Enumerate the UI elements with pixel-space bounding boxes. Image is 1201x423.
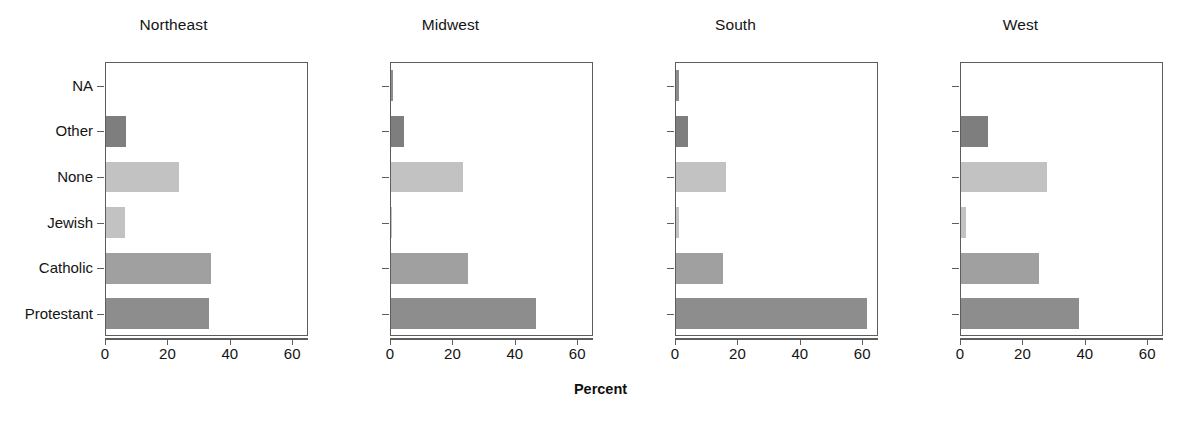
bar-row-jewish [961,207,1162,238]
y-axis-label-jewish: Jewish [47,213,93,230]
y-axis-labels-northeast: NA Other None Jewish Catholic Protestant [0,62,93,336]
x-tick-label-40: 40 [506,345,523,362]
plot-area-west [960,62,1163,336]
x-tick-0 [675,338,676,345]
y-axis-label-protestant: Protestant [25,304,93,321]
y-tick-other [97,131,104,132]
panel-grid: Northeast NA Other None Jewish Catholic … [0,0,1201,380]
bar-row-catholic [391,253,592,284]
bar-none [106,162,179,193]
panel-title-west: West [855,16,1140,34]
x-tick-label-20: 20 [444,345,461,362]
bar-row-other [676,116,877,147]
bar-catholic [676,253,723,284]
y-tick-other [952,131,959,132]
x-tick-label-0: 0 [671,345,679,362]
y-tick-jewish [952,223,959,224]
bar-row-none [391,162,592,193]
y-tick-none [97,177,104,178]
y-tick-catholic [667,268,674,269]
x-tick-0 [960,338,961,345]
bar-row-na [961,70,1162,101]
y-tick-na [382,86,389,87]
panel-south: South [570,0,855,380]
panel-northeast: Northeast NA Other None Jewish Catholic … [0,0,285,380]
bar-row-none [106,162,307,193]
bar-none [676,162,726,193]
x-tick-20 [452,338,453,345]
bar-row-catholic [676,253,877,284]
y-tick-protestant [382,314,389,315]
bar-none [961,162,1047,193]
y-axis-label-none: None [57,168,93,185]
bar-none [391,162,463,193]
plot-area-south [675,62,878,336]
bar-other [676,116,688,147]
bar-row-jewish [106,207,307,238]
bar-jewish [676,207,679,238]
bar-protestant [391,298,536,329]
x-tick-label-20: 20 [159,345,176,362]
x-axis-line-midwest [390,338,593,340]
bar-na [391,70,393,101]
y-tick-none [382,177,389,178]
bar-row-jewish [676,207,877,238]
y-tick-jewish [667,223,674,224]
bar-row-none [676,162,877,193]
bar-row-catholic [106,253,307,284]
x-tick-label-40: 40 [221,345,238,362]
bar-other [391,116,404,147]
y-axis-label-catholic: Catholic [39,259,93,276]
bar-chart-figure: Northeast NA Other None Jewish Catholic … [0,0,1201,423]
bar-row-other [961,116,1162,147]
y-axis-label-other: Other [55,122,93,139]
y-tick-na [952,86,959,87]
bar-na [676,70,679,101]
bar-row-other [391,116,592,147]
x-tick-40 [515,338,516,345]
x-tick-40 [1085,338,1086,345]
bar-protestant [106,298,209,329]
bar-row-none [961,162,1162,193]
x-tick-label-0: 0 [386,345,394,362]
y-tick-jewish [382,223,389,224]
x-tick-20 [167,338,168,345]
bar-row-na [391,70,592,101]
y-tick-protestant [667,314,674,315]
bar-row-jewish [391,207,592,238]
x-tick-20 [1022,338,1023,345]
bar-jewish [391,207,392,238]
x-tick-label-0: 0 [101,345,109,362]
x-tick-label-0: 0 [956,345,964,362]
y-tick-other [382,131,389,132]
y-tick-protestant [97,314,104,315]
bar-catholic [106,253,211,284]
y-tick-catholic [97,268,104,269]
panel-title-south: South [570,16,855,34]
x-axis-line-northeast [105,338,308,340]
y-tick-other [667,131,674,132]
panel-title-midwest: Midwest [285,16,570,34]
bars-west [961,63,1162,335]
panel-midwest: Midwest [285,0,570,380]
x-axis-line-west [960,338,1163,340]
panel-title-northeast: Northeast [0,16,285,34]
y-tick-none [952,177,959,178]
x-axis-line-south [675,338,878,340]
x-tick-0 [105,338,106,345]
y-tick-na [97,86,104,87]
x-tick-40 [800,338,801,345]
bar-protestant [676,298,867,329]
plot-area-northeast [105,62,308,336]
bar-other [106,116,126,147]
bar-row-protestant [961,298,1162,329]
x-tick-label-20: 20 [729,345,746,362]
x-axis-title: Percent [0,381,1201,397]
x-tick-0 [390,338,391,345]
bar-row-other [106,116,307,147]
bar-catholic [391,253,468,284]
y-axis-label-na: NA [72,76,93,93]
bar-row-protestant [106,298,307,329]
y-tick-catholic [382,268,389,269]
x-tick-20 [737,338,738,345]
